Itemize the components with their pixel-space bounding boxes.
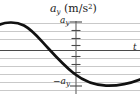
y-bottom-subscript: y [66,80,70,88]
acceleration-vs-time-chart: ay (m/s2) ay −ay t [0,0,140,101]
gridlines-group [0,24,140,91]
title-units-close: ) [93,2,97,15]
y-axis-bottom-tick-label: −ay [53,77,70,88]
chart-title: ay (m/s2) [50,3,97,16]
y-bottom-symbol: −a [53,76,66,86]
title-units-open: (m/s [61,2,89,15]
y-axis-top-tick-label: ay [60,16,69,27]
t-axis-label: t [133,43,137,52]
y-top-subscript: y [65,19,69,27]
